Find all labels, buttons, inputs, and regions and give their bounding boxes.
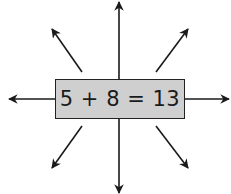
arrow-up-left-icon — [52, 29, 82, 72]
arrow-down-right-icon — [156, 126, 188, 168]
equation-box: 5 + 8 = 13 — [55, 79, 185, 119]
diagram-canvas: 5 + 8 = 13 — [0, 0, 231, 194]
arrow-up-right-icon — [156, 29, 188, 72]
equation-text: 5 + 8 = 13 — [60, 87, 180, 111]
arrow-down-left-icon — [52, 126, 82, 168]
